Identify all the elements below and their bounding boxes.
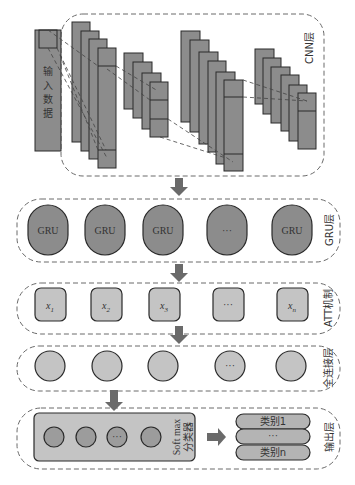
att-node-2: x3 [149, 288, 180, 321]
gru-layer-label: GRU层 [324, 214, 335, 246]
att-layer-label: ATT机制 [322, 289, 334, 327]
class-list: 类别1 ··· 类别n [236, 414, 310, 460]
svg-text:···: ··· [223, 299, 233, 310]
input-label-char-0: 输 [43, 65, 53, 77]
cnn-gru-att-diagram: 输 入 数 据 [0, 0, 355, 485]
svg-text:GRU: GRU [37, 225, 59, 236]
input-label-char-3: 据 [43, 107, 53, 119]
att-node-0: x1 [35, 288, 66, 321]
conv-stack-2 [181, 31, 243, 171]
pool-stack-1 [124, 53, 168, 137]
arrow-cnn-to-gru [170, 178, 188, 196]
arrow-gru-to-att [170, 264, 188, 282]
softmax-node-0 [44, 427, 64, 447]
input-label-char-2: 数 [43, 93, 53, 105]
svg-text:类别n: 类别n [260, 446, 286, 458]
class-item-1: ··· [236, 429, 310, 444]
softmax-label-line1: Soft max [171, 419, 182, 455]
gru-node-1: GRU [85, 205, 125, 255]
fc-node-4 [276, 351, 306, 381]
svg-text:GRU: GRU [281, 225, 303, 236]
gru-node-4: GRU [272, 205, 312, 255]
fc-node-2 [148, 351, 178, 381]
svg-text:···: ··· [112, 431, 122, 442]
svg-text:类别1: 类别1 [260, 415, 286, 427]
svg-text:GRU: GRU [152, 225, 174, 236]
cnn-layer-label: CNN层 [304, 32, 315, 64]
fc-node-1 [92, 351, 122, 381]
gru-node-3: ··· [207, 205, 247, 255]
output-layer-label: 输出层 [323, 422, 335, 452]
softmax-label-line2: 分类器 [182, 422, 194, 452]
fc-node-3: ··· [215, 351, 245, 381]
fc-layer-label: 全连接层 [322, 348, 334, 388]
gru-node-2: GRU [143, 205, 183, 255]
softmax-node-2: ··· [107, 427, 127, 447]
svg-text:···: ··· [225, 360, 235, 371]
conv-stack-1 [72, 22, 116, 168]
gru-layer: GRU GRU GRU ··· GRU GRU层 [17, 199, 340, 262]
fc-layer: ··· 全连接层 [17, 346, 340, 391]
att-node-1: x2 [91, 288, 122, 321]
cnn-layer: 输 入 数 据 [35, 14, 324, 176]
att-node-3: ··· [213, 288, 244, 321]
svg-text:GRU: GRU [94, 225, 116, 236]
fc-node-0 [35, 351, 65, 381]
softmax-node-1 [76, 427, 96, 447]
svg-text:···: ··· [268, 430, 278, 441]
att-node-4: xn [277, 288, 308, 321]
gru-node-0: GRU [28, 205, 68, 255]
class-item-0: 类别1 [236, 414, 310, 429]
softmax-classifier: ··· Soft max 分类器 [34, 413, 195, 461]
arrow-att-to-fc [170, 326, 188, 344]
class-item-2: 类别n [236, 445, 310, 460]
arrow-softmax-to-classes [207, 428, 226, 446]
output-layer: ··· Soft max 分类器 类别1 ··· 类别n 输出层 [17, 408, 340, 469]
input-label-char-1: 入 [43, 80, 53, 91]
softmax-node-3 [141, 427, 161, 447]
svg-text:···: ··· [222, 225, 232, 236]
